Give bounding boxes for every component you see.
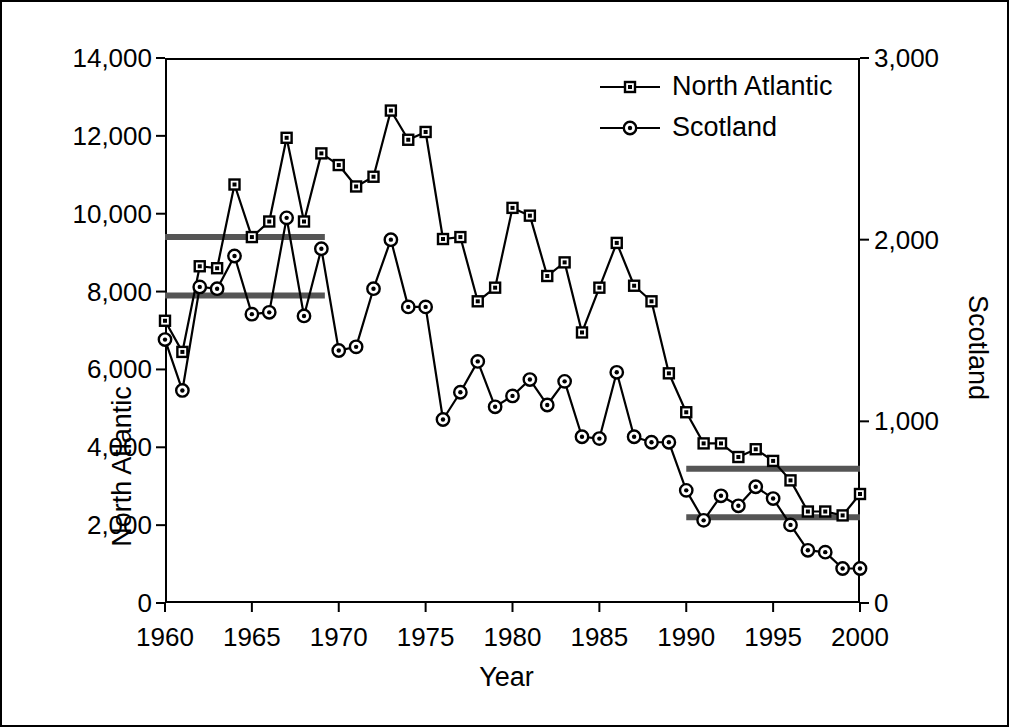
y-axis-left-tick-label: 0 (138, 590, 152, 616)
data-point-core (632, 284, 636, 288)
data-point-core (406, 305, 410, 309)
data-point-core (754, 485, 758, 489)
y-axis-left-title-wrap: North Atlantic (62, 122, 63, 123)
data-point-core (389, 109, 393, 113)
data-point-core (545, 274, 549, 278)
data-point-core (510, 394, 514, 398)
data-point-core (250, 312, 254, 316)
data-point-core (232, 254, 236, 258)
data-point-core (319, 247, 323, 251)
data-point-core (267, 220, 271, 224)
data-point-core (528, 377, 532, 381)
data-point-core (684, 488, 688, 492)
x-axis-title: Year (2, 662, 1009, 693)
data-point-core (684, 410, 688, 414)
data-point-core (458, 390, 462, 394)
data-point-core (580, 330, 584, 334)
y-axis-left-tick-label: 12,000 (72, 123, 152, 149)
data-point-core (406, 138, 410, 142)
data-point-core (823, 510, 827, 514)
data-point-core (476, 299, 480, 303)
data-point-core (615, 241, 619, 245)
data-point-core (285, 136, 289, 140)
data-point-core (580, 435, 584, 439)
data-point-core (250, 235, 254, 239)
data-point-core (493, 286, 497, 290)
data-point-core (858, 492, 862, 496)
data-point-core (337, 348, 341, 352)
data-point-core (284, 216, 288, 220)
data-point-core (840, 566, 844, 570)
data-point-core (354, 184, 358, 188)
data-point-core (701, 518, 705, 522)
data-point-core (372, 175, 376, 179)
data-point-core (198, 285, 202, 289)
data-point-core (215, 266, 219, 270)
data-point-core (667, 371, 671, 375)
data-point-core (858, 566, 862, 570)
legend-label: Scotland (672, 107, 777, 148)
data-point-core (319, 151, 323, 155)
legend-marker-circle-icon (598, 116, 662, 140)
x-axis-tick-labels: 196019651970197519801985199019952000 (2, 622, 1009, 662)
y-axis-right-tick-label: 2,000 (874, 227, 939, 253)
y-axis-right-title: Scotland (962, 238, 993, 458)
data-point-core (771, 459, 775, 463)
data-point-core (476, 359, 480, 363)
y-axis-right-title-wrap: Scotland (977, 222, 978, 223)
data-point-core (702, 441, 706, 445)
data-point-core (389, 237, 393, 241)
data-point-core (371, 287, 375, 291)
data-point-core (528, 214, 532, 218)
data-point-core (180, 350, 184, 354)
y-axis-right-tick-label: 1,000 (874, 408, 939, 434)
y-axis-right-tick-label: 3,000 (874, 45, 939, 71)
data-point-core (789, 478, 793, 482)
legend-label: North Atlantic (672, 66, 833, 107)
data-point-core (823, 550, 827, 554)
data-point-core (441, 417, 445, 421)
data-point-core (841, 513, 845, 517)
data-point-core (562, 379, 566, 383)
data-point-core (163, 319, 167, 323)
data-point-core (198, 264, 202, 268)
data-point-core (649, 440, 653, 444)
figure-container: 02,0004,0006,0008,00010,00012,00014,000 … (0, 0, 1009, 727)
legend-marker-square-icon (598, 75, 662, 99)
data-point-core (441, 237, 445, 241)
data-point-core (597, 286, 601, 290)
data-point-core (163, 337, 167, 341)
data-point-core (788, 523, 792, 527)
data-point-core (267, 310, 271, 314)
data-point-core (736, 455, 740, 459)
data-point-core (511, 206, 515, 210)
data-point-core (736, 504, 740, 508)
data-point-core (650, 299, 654, 303)
data-point-core (424, 130, 428, 134)
data-point-core (302, 220, 306, 224)
data-point-core (615, 370, 619, 374)
data-point-core (632, 435, 636, 439)
data-point-core (597, 436, 601, 440)
data-point-core (806, 548, 810, 552)
data-point-core (354, 345, 358, 349)
data-point-core (545, 403, 549, 407)
data-point-core (458, 235, 462, 239)
y-axis-left-tick-label: 10,000 (72, 201, 152, 227)
data-point-core (667, 440, 671, 444)
data-point-core (719, 441, 723, 445)
legend-entry: Scotland (598, 107, 833, 148)
data-point-core (423, 305, 427, 309)
data-point-core (215, 287, 219, 291)
data-point-core (719, 494, 723, 498)
y-axis-left-title: North Atlantic (107, 257, 138, 677)
data-point-core (233, 183, 237, 187)
data-point-core (563, 260, 567, 264)
data-point-core (771, 496, 775, 500)
legend-entry: North Atlantic (598, 66, 833, 107)
y-axis-left-tick-label: 14,000 (72, 45, 152, 71)
chart-legend: North AtlanticScotland (598, 66, 833, 148)
chart-canvas (2, 2, 1009, 727)
data-point-core (302, 314, 306, 318)
data-point-core (806, 510, 810, 514)
